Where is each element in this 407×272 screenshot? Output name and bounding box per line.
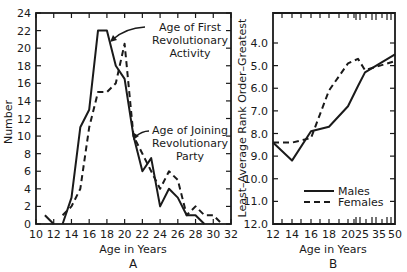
- series-line: [45, 215, 54, 224]
- x-tick-label: 50: [388, 228, 402, 241]
- y-tick-label: 10: [17, 130, 31, 143]
- annotation-line: Age of First: [159, 21, 222, 34]
- x-tick-label: 28: [189, 228, 203, 241]
- axis-break-mark: [372, 13, 376, 20]
- annotation-first-activity: Age of First Revolutionary Activity: [110, 21, 229, 60]
- x-tick-label: 25: [355, 228, 369, 241]
- y-tick-label: 7.0: [251, 105, 269, 118]
- y-tick-label: 8.0: [251, 128, 269, 141]
- y-tick-label: 6.0: [251, 82, 269, 95]
- panel-b-y-axis-title: Least–Average Rank Order–Greatest: [236, 18, 249, 218]
- x-tick-label: 26: [171, 228, 185, 241]
- panel-b-series: [273, 54, 395, 160]
- x-tick-label: 10: [29, 228, 43, 241]
- x-tick-label: 18: [322, 228, 336, 241]
- panel-a-y-axis-title: Number: [2, 99, 15, 144]
- x-tick-label: 14: [285, 228, 299, 241]
- axis-break-mark: [356, 217, 360, 224]
- figure: 024681012141618202224 101214161820222426…: [0, 0, 407, 272]
- x-tick-label: 18: [100, 228, 114, 241]
- y-tick-label: 8: [24, 148, 31, 161]
- x-tick-label: 32: [224, 228, 238, 241]
- x-tick-label: 24: [153, 228, 167, 241]
- x-tick-label: 22: [135, 228, 149, 241]
- x-tick-label: 20: [118, 228, 132, 241]
- x-tick-label: 12: [47, 228, 61, 241]
- panel-b: 4.05.06.07.08.09.010.011.012.0 121416182…: [236, 13, 402, 271]
- panel-a-x-axis-title: Age in Years: [99, 243, 167, 256]
- x-tick-label: 16: [82, 228, 96, 241]
- y-tick-label: 9.0: [251, 150, 269, 163]
- y-tick-label: 6: [24, 165, 31, 178]
- y-tick-label: 4.0: [251, 37, 269, 50]
- axis-break-mark: [372, 217, 376, 224]
- panel-b-frame: [273, 13, 395, 224]
- panel-a-label: A: [129, 257, 138, 271]
- y-tick-label: 12: [17, 113, 31, 126]
- annotation-line: Age of Joining: [152, 124, 228, 137]
- y-tick-label: 14: [17, 95, 31, 108]
- y-tick-label: 24: [17, 7, 31, 20]
- y-tick-label: 2: [24, 200, 31, 213]
- y-tick-label: 5.0: [251, 60, 269, 73]
- annotation-line: Activity: [169, 47, 211, 60]
- panel-a: 024681012141618202224 101214161820222426…: [2, 7, 238, 271]
- annotation-line: Party: [176, 150, 205, 163]
- y-tick-label: 20: [17, 42, 31, 55]
- y-tick-label: 22: [17, 25, 31, 38]
- y-tick-label: 18: [17, 60, 31, 73]
- annotation-joining-party: Age of Joining Revolutionary Party: [133, 124, 229, 163]
- series-line: [273, 59, 395, 143]
- annotation-arrow: [112, 27, 145, 40]
- y-tick-label: 4: [24, 183, 31, 196]
- x-tick-label: 16: [304, 228, 318, 241]
- x-tick-label: 14: [64, 228, 78, 241]
- x-tick-label: 20: [341, 228, 355, 241]
- legend-label-females: Females: [338, 196, 384, 209]
- x-tick-label: 12: [266, 228, 280, 241]
- legend: Males Females: [304, 185, 384, 209]
- axis-break-mark: [356, 13, 360, 20]
- axis-break-mark: [387, 217, 391, 224]
- series-line: [273, 54, 395, 160]
- y-tick-label: 12.0: [244, 218, 269, 231]
- annotation-line: Revolutionary: [152, 137, 229, 150]
- x-tick-label: 30: [206, 228, 220, 241]
- axis-break-mark: [387, 13, 391, 20]
- x-tick-label: 35: [372, 228, 386, 241]
- panel-b-x-axis-title: Age in Years: [299, 243, 367, 256]
- annotation-line: Revolutionary: [152, 34, 229, 47]
- panel-b-label: B: [329, 257, 337, 271]
- y-tick-label: 16: [17, 77, 31, 90]
